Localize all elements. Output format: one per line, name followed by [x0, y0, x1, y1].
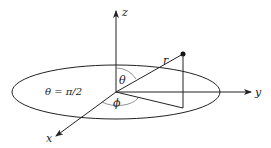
phi-label: ϕ: [113, 97, 121, 110]
plane-equation-label: θ = π/2: [45, 86, 82, 97]
radius-vector: [116, 54, 183, 92]
planar-projection: [116, 92, 183, 108]
y-axis-label: y: [254, 86, 262, 99]
radius-label: r: [163, 54, 169, 67]
z-axis-label: z: [121, 6, 128, 19]
x-axis: [56, 92, 116, 136]
spherical-coordinates-diagram: z y x r θ ϕ θ = π/2: [0, 0, 271, 148]
x-axis-label: x: [46, 132, 53, 145]
theta-label: θ: [119, 74, 126, 87]
